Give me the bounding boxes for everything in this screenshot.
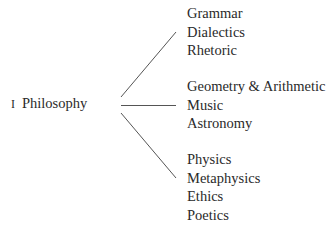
branch-item: Music [187, 96, 326, 115]
branch-quadrivium: Geometry & Arithmetic Music Astronomy [187, 77, 326, 133]
branch-item: Poetics [187, 206, 260, 225]
branch-item: Dialectics [187, 23, 245, 42]
branch-item: Rhetoric [187, 41, 245, 60]
connector-upper [121, 32, 176, 97]
branch-item: Grammar [187, 4, 245, 23]
branch-item: Astronomy [187, 114, 326, 133]
branch-item: Metaphysics [187, 169, 260, 188]
connector-lower [121, 113, 176, 178]
branch-item: Physics [187, 150, 260, 169]
branch-item: Geometry & Arithmetic [187, 77, 326, 96]
branch-item: Ethics [187, 187, 260, 206]
branch-philosophy-parts: Physics Metaphysics Ethics Poetics [187, 150, 260, 224]
branch-trivium: Grammar Dialectics Rhetoric [187, 4, 245, 60]
